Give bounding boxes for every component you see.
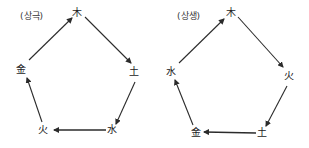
node-metal: 金 — [190, 128, 202, 138]
arrow-fire-to-earth — [266, 86, 287, 126]
arrow-earth-to-water — [116, 82, 135, 124]
node-fire: 火 — [283, 71, 295, 81]
arrow-metal-to-water — [175, 80, 193, 125]
arrow-wood-to-fire — [238, 17, 283, 67]
diagram-sangsaeng: (상생) 木 火 土 金 水 — [155, 0, 309, 148]
arrow-earth-to-metal — [204, 132, 256, 133]
diagram-title: (상생) — [177, 9, 200, 22]
node-wood: 木 — [71, 8, 83, 18]
node-metal: 金 — [15, 65, 27, 75]
diagram-title: (상극) — [20, 9, 43, 22]
node-wood: 木 — [225, 8, 237, 18]
node-fire: 火 — [37, 125, 49, 135]
node-earth: 土 — [256, 128, 268, 138]
diagram-sanggeuk: (상극) 木 土 水 火 金 — [0, 0, 155, 148]
arrow-wood-to-earth — [85, 17, 131, 63]
arrow-metal-to-wood — [29, 18, 72, 60]
arrow-water-to-wood — [179, 19, 224, 63]
node-earth: 土 — [128, 67, 140, 77]
arrow-fire-to-metal — [27, 78, 42, 122]
node-water: 水 — [165, 67, 177, 77]
node-water: 水 — [106, 125, 118, 135]
